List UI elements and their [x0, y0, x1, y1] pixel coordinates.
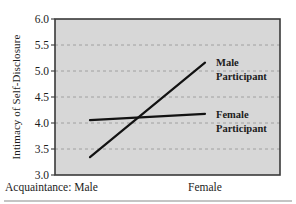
figure-container: 6.0 5.5 5.0 4.5 4.0 3.5 3.0 Intimacy of … — [0, 0, 296, 204]
ytick-label-5-0: 5.0 — [35, 65, 50, 77]
ytick-label-4-0: 4.0 — [35, 117, 50, 129]
ytick-label-3-5: 3.5 — [35, 143, 50, 155]
legend-female-line-2: Participant — [216, 123, 267, 134]
x-axis-label-left: Acquaintance: Male — [5, 181, 98, 194]
line-chart: 6.0 5.5 5.0 4.5 4.0 3.5 3.0 Intimacy of … — [0, 0, 296, 204]
ytick-label-3-0: 3.0 — [35, 169, 50, 181]
legend-male-line-2: Participant — [216, 71, 267, 82]
y-axis-tick-labels: 6.0 5.5 5.0 4.5 4.0 3.5 3.0 — [35, 13, 50, 181]
x-axis-label-right: Female — [188, 181, 222, 193]
legend-male-line-1: Male — [216, 57, 239, 68]
plot-background — [55, 19, 280, 175]
ytick-label-4-5: 4.5 — [35, 91, 50, 103]
legend-female-line-1: Female — [216, 109, 249, 120]
ytick-label-6-0: 6.0 — [35, 13, 50, 25]
y-axis-title: Intimacy of Self-Disclosure — [10, 35, 22, 160]
ytick-label-5-5: 5.5 — [35, 39, 50, 51]
